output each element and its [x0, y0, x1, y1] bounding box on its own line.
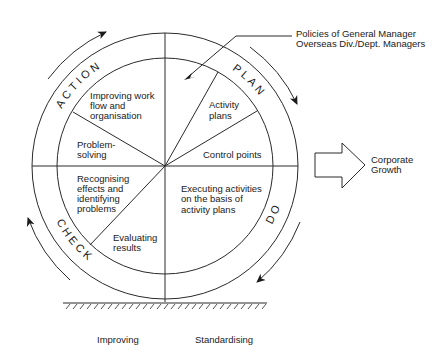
segment-executing-activities: Executing activities on the basis of act…	[181, 183, 264, 215]
svg-text:Policies of General Manager: Policies of General Manager Overseas Div…	[296, 28, 425, 49]
ground-hatching	[66, 304, 266, 309]
segment-problem-solving: Problem- solving	[77, 139, 118, 160]
arrow-do-icon	[257, 222, 300, 282]
pdca-diagram: ACTION PLAN CHECK DO Improving work flow…	[0, 0, 439, 353]
block-arrow-icon	[315, 143, 365, 188]
corporate-growth-arrow: Corporate Growth	[315, 143, 416, 188]
phase-check-label: CHECK	[54, 216, 96, 263]
ground-line	[63, 303, 267, 309]
policies-callout: Policies of General Manager Overseas Div…	[184, 28, 425, 80]
svg-text:Corporate Growth: Corporate Growth	[371, 154, 416, 175]
segment-activity-plans: Activity plans	[209, 99, 242, 121]
label-improving: Improving	[97, 334, 139, 345]
segment-evaluating-results: Evaluating results	[113, 232, 160, 253]
segment-control-points: Control points	[203, 149, 262, 160]
segment-recognising-effects: Recognising effects and identifying prob…	[77, 173, 132, 214]
callout-arrow-icon	[184, 73, 195, 80]
segment-improving-work-flow: Improving work flow and organisation	[90, 90, 157, 121]
label-standardising: Standardising	[195, 334, 253, 345]
phase-plan-label: PLAN	[231, 61, 269, 98]
